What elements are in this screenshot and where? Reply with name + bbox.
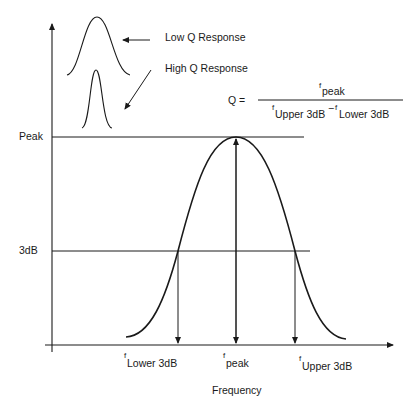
high-q-curve-icon	[82, 70, 112, 128]
low-q-label: Low Q Response	[165, 31, 246, 43]
3db-level-label: 3dB	[19, 244, 38, 256]
formula-numerator-sub: peak	[322, 85, 346, 97]
low-q-curve-icon	[67, 17, 130, 75]
upper-3db-label: Upper 3dB	[302, 360, 352, 372]
formula-denominator-sub1: Upper 3dB	[275, 108, 325, 120]
formula-lhs: Q =	[228, 94, 245, 106]
peak-level-label: Peak	[19, 130, 44, 142]
x-axis-title: Frequency	[212, 384, 262, 396]
peak-label: peak	[226, 357, 250, 369]
lower-3db-label: Lower 3dB	[127, 357, 177, 369]
formula-denominator-f2: f	[335, 103, 338, 112]
formula-denominator-sub2: Lower 3dB	[339, 108, 389, 120]
high-q-pointer-arrow	[125, 70, 151, 109]
high-q-label: High Q Response	[165, 62, 248, 74]
q-factor-diagram: Peak 3dB Low Q Response High Q Response …	[0, 0, 415, 416]
formula-minus: −	[328, 102, 334, 114]
